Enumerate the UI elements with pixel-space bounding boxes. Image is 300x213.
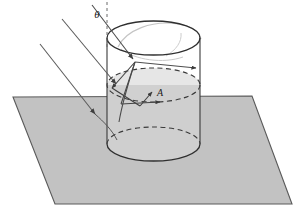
theta-label: θ [94, 8, 100, 20]
point-a-label: A [156, 87, 164, 98]
figure-root: θ A [0, 0, 300, 213]
plane-intersection-ellipse [107, 68, 200, 102]
plane-intersection-dashed [107, 68, 200, 102]
cylinder-light-ray-diagram: θ A [0, 0, 300, 213]
